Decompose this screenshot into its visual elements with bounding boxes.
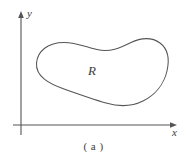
figure-caption: ( a ) [0, 140, 187, 152]
y-axis-label: y [27, 8, 32, 19]
figure-container: y x R ( a ) [0, 0, 187, 165]
region-outline [36, 39, 168, 106]
x-axis-label: x [172, 127, 177, 138]
y-axis-arrowhead [18, 11, 24, 18]
region-label-R: R [88, 64, 96, 77]
